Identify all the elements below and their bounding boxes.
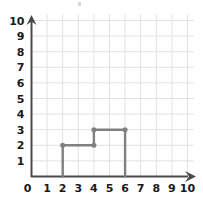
y-tick-label: 1 (17, 155, 25, 168)
y-tick-label: 4 (17, 108, 25, 121)
plot-background (0, 0, 203, 199)
x-tick-label: 7 (137, 182, 145, 195)
x-axis-tick-labels: 012345678910 (24, 182, 196, 195)
y-tick-label: 6 (17, 77, 25, 90)
y-tick-label: 2 (17, 139, 25, 152)
y-tick-label: 8 (17, 46, 25, 59)
chart-screenshot: 012345678910 12345678910 (0, 0, 203, 199)
coordinate-plot: 012345678910 12345678910 (0, 0, 203, 199)
top-artifact-mark (78, 2, 81, 6)
y-tick-label: 9 (17, 30, 25, 43)
x-tick-label: 9 (168, 182, 176, 195)
y-tick-label: 10 (9, 15, 25, 28)
x-tick-label: 1 (43, 182, 51, 195)
x-tick-label: 5 (106, 182, 114, 195)
x-tick-label: 8 (152, 182, 160, 195)
x-tick-label: 6 (121, 182, 129, 195)
vertex-marker (123, 127, 128, 132)
vertex-marker (91, 143, 96, 148)
x-tick-label: 10 (180, 182, 196, 195)
vertex-marker (91, 127, 96, 132)
y-tick-label: 7 (17, 61, 25, 74)
vertex-marker (60, 143, 65, 148)
x-tick-label: 0 (24, 182, 32, 195)
x-tick-label: 2 (59, 182, 67, 195)
y-tick-label: 5 (17, 93, 25, 106)
x-tick-label: 4 (90, 182, 98, 195)
x-tick-label: 3 (74, 182, 82, 195)
y-tick-label: 3 (17, 124, 25, 137)
